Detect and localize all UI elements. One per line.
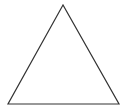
triangle-diagram xyxy=(0,0,124,111)
triangle-shape xyxy=(8,5,119,104)
diagram-canvas xyxy=(0,0,124,111)
